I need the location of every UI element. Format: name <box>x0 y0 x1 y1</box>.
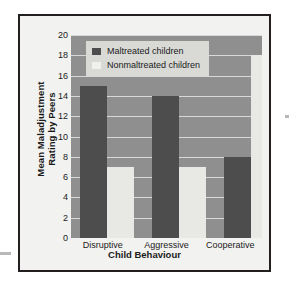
y-axis-tick-label: 0 <box>63 233 68 243</box>
bar <box>107 167 134 238</box>
bar <box>80 86 107 238</box>
bar <box>224 157 251 238</box>
y-axis-tick-label: 20 <box>58 30 68 40</box>
bar <box>251 55 262 238</box>
legend-item: Nonmaltreated children <box>92 58 200 72</box>
y-axis-tick-label: 4 <box>63 192 68 202</box>
y-axis-tick-labels: 20181614121086420 <box>42 35 68 238</box>
y-axis-tick-label: 6 <box>63 172 68 182</box>
bar <box>152 96 179 238</box>
y-axis-tick-label: 2 <box>63 213 68 223</box>
bar-group <box>215 35 262 238</box>
y-axis-tick-label: 18 <box>58 50 68 60</box>
legend-label: Maltreated children <box>107 46 184 56</box>
legend-label: Nonmaltreated children <box>107 60 200 70</box>
page-edge-mark-left <box>0 252 11 255</box>
chart-frame: Mean Maladjustment Rating by Peers 20181… <box>18 14 271 272</box>
y-axis-tick-label: 14 <box>58 91 68 101</box>
y-axis-tick-label: 8 <box>63 152 68 162</box>
legend-swatch-icon <box>92 48 101 55</box>
y-axis-tick-label: 16 <box>58 71 68 81</box>
page-edge-mark-right <box>285 115 289 118</box>
legend-swatch-icon <box>92 62 101 69</box>
legend-item: Maltreated children <box>92 44 200 58</box>
y-axis-tick-label: 10 <box>58 132 68 142</box>
y-axis-tick-label: 12 <box>58 111 68 121</box>
chart-legend: Maltreated childrenNonmaltreated childre… <box>86 41 209 76</box>
x-axis-title: Child Behaviour <box>20 249 269 260</box>
chart-figure: Mean Maladjustment Rating by Peers 20181… <box>0 0 289 291</box>
bar <box>179 167 206 238</box>
